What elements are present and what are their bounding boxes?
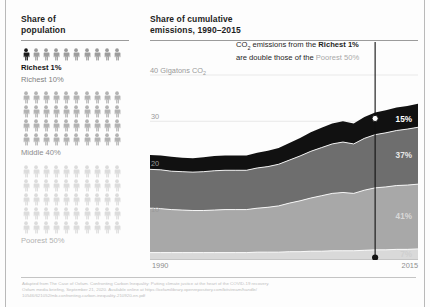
person-icon — [102, 193, 112, 206]
person-icon — [71, 179, 81, 192]
person-icon — [82, 193, 92, 206]
spacer-1 — [21, 84, 129, 91]
person-icon — [71, 133, 81, 146]
person-icon — [31, 221, 41, 234]
pct-label-richest-1: 15% — [396, 115, 412, 124]
y-axis-unit-text: 40 Gigatons CO — [150, 66, 203, 75]
person-icon — [21, 91, 31, 104]
person-icon — [92, 48, 102, 61]
person-icon — [41, 193, 51, 206]
person-icon — [61, 133, 71, 146]
pct-label-middle-40: 41% — [396, 212, 412, 221]
person-icon — [21, 48, 31, 61]
person-icon — [112, 91, 122, 104]
person-icon — [112, 179, 122, 192]
pictogram-row — [21, 165, 129, 178]
x-tick-end: 2015 — [402, 261, 418, 270]
person-icon — [51, 119, 61, 132]
person-icon — [102, 133, 112, 146]
poorest-block: Poorest 50% — [21, 165, 129, 246]
emissions-title-line1: Share of cumulative — [150, 14, 418, 25]
person-icon — [41, 133, 51, 146]
person-icon — [102, 165, 112, 178]
person-icon — [92, 91, 102, 104]
person-icon — [61, 48, 71, 61]
person-icon — [31, 165, 41, 178]
person-icon — [61, 193, 71, 206]
label-middle-40: Middle 40% — [21, 148, 129, 158]
population-title-line2: population — [21, 25, 129, 36]
person-icon — [82, 91, 92, 104]
person-icon — [21, 179, 31, 192]
y-tick-10: 10 — [151, 205, 159, 214]
person-icon — [51, 221, 61, 234]
person-icon — [112, 207, 122, 220]
pct-label-poorest-50: 7% — [400, 250, 412, 259]
person-icon — [112, 105, 122, 118]
pictogram-row — [21, 48, 129, 61]
person-icon — [82, 165, 92, 178]
person-icon — [51, 48, 61, 61]
person-icon — [21, 119, 31, 132]
person-icon — [41, 221, 51, 234]
person-icon — [82, 48, 92, 61]
right-page-rule — [424, 0, 425, 307]
person-icon — [102, 91, 112, 104]
person-icon — [61, 179, 71, 192]
pictogram-group-poorest — [21, 165, 129, 234]
person-icon — [41, 179, 51, 192]
person-icon — [92, 119, 102, 132]
pictogram-row — [21, 91, 129, 104]
person-icon — [102, 207, 112, 220]
person-icon — [61, 105, 71, 118]
label-poorest-50: Poorest 50% — [21, 236, 129, 246]
person-icon — [51, 105, 61, 118]
person-icon — [92, 133, 102, 146]
person-icon — [92, 105, 102, 118]
person-icon — [41, 105, 51, 118]
person-icon — [51, 207, 61, 220]
pictogram-row — [21, 105, 129, 118]
person-icon — [31, 179, 41, 192]
infographic-page: Share of population Richest 1% Richest 1… — [0, 0, 430, 307]
person-icon — [41, 207, 51, 220]
person-icon — [31, 193, 41, 206]
person-icon — [102, 105, 112, 118]
pictogram-row — [21, 119, 129, 132]
person-icon — [21, 221, 31, 234]
person-icon — [61, 207, 71, 220]
person-icon — [21, 193, 31, 206]
person-icon — [41, 91, 51, 104]
person-icon — [71, 48, 81, 61]
person-icon — [102, 179, 112, 192]
footer-divider — [21, 277, 416, 278]
person-icon — [71, 221, 81, 234]
person-icon — [102, 221, 112, 234]
person-icon — [71, 165, 81, 178]
label-richest-1: Richest 1% — [21, 63, 129, 73]
pct-label-richest-10: 37% — [396, 151, 412, 160]
person-icon — [51, 91, 61, 104]
person-icon — [112, 48, 122, 61]
label-richest-10: Richest 10% — [21, 75, 129, 85]
pictogram-row — [21, 179, 129, 192]
person-icon — [92, 207, 102, 220]
y-axis-unit-subscript: 2 — [203, 70, 206, 76]
person-icon — [71, 207, 81, 220]
stacked-area-chart: 40 Gigatons CO2 30 20 10 1990 2015 15% 3… — [150, 75, 418, 260]
person-icon — [21, 165, 31, 178]
person-icon — [92, 193, 102, 206]
person-icon — [31, 207, 41, 220]
pictogram-row — [21, 133, 129, 146]
person-icon — [41, 165, 51, 178]
pictogram-row — [21, 193, 129, 206]
person-icon — [41, 119, 51, 132]
person-icon — [51, 165, 61, 178]
person-icon — [71, 105, 81, 118]
person-icon — [82, 221, 92, 234]
person-icon — [21, 105, 31, 118]
person-icon — [112, 119, 122, 132]
person-icon — [51, 133, 61, 146]
person-icon — [51, 179, 61, 192]
person-icon — [61, 91, 71, 104]
